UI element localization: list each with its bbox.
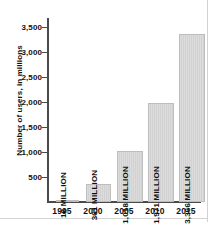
bar-1995[interactable]: 16 MILLION — [56, 200, 79, 202]
y-axis-tick-labels: 3,500 3,000 2,500 2,000 1,500 1,000 500 — [0, 0, 42, 228]
x-tick-label-2015: 2015 — [169, 206, 203, 216]
chart-figure: Number of users, in millions 3,500 3,000… — [0, 0, 215, 228]
y-tick-label-500: 500 — [4, 173, 42, 182]
bar-2005[interactable]: 1,018 MILLION — [117, 151, 143, 202]
x-tick-label-2005: 2005 — [107, 206, 141, 216]
page-frame-right-rule — [207, 0, 208, 222]
x-tick-label-1995: 1995 — [45, 206, 79, 216]
y-tick-label-2000: 2,000 — [4, 98, 42, 107]
y-tick-label-1500: 1,500 — [4, 123, 42, 132]
y-tick-label-2500: 2,500 — [4, 73, 42, 82]
y-tick-label-3000: 3,000 — [4, 48, 42, 57]
y-tick-label-1000: 1,000 — [4, 148, 42, 157]
bar-2010[interactable]: 1,971 MILLION — [148, 103, 174, 202]
bar-2000[interactable]: 361 MILLION — [86, 184, 111, 202]
y-tick-label-3500: 3,500 — [4, 23, 42, 32]
bar-2015[interactable]: 3,366 MILLION — [179, 34, 205, 202]
x-tick-label-2000: 2000 — [76, 206, 110, 216]
plot-area: 16 MILLION 361 MILLION 1,018 MILLION 1,9… — [48, 18, 200, 202]
x-tick-label-2010: 2010 — [138, 206, 172, 216]
